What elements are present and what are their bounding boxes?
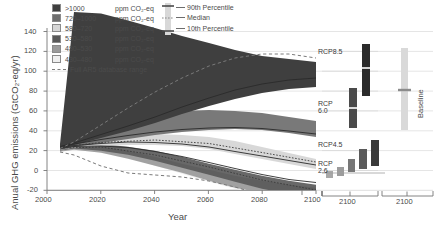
legend-swatch-720-1000 (52, 14, 61, 22)
legend-swatch-530-580 (52, 35, 61, 43)
baseline-label: Baseline (416, 89, 425, 118)
side-panel-a-xtick: 2100 (339, 198, 356, 206)
legend-item-580-720: 580–720 ppm CO₂-eq (52, 23, 154, 33)
legend-dash-full-range (52, 69, 66, 70)
y-tick-60: 60 (29, 107, 37, 115)
legend-item-530-580: 530–580 ppm CO₂-eq (52, 34, 154, 44)
panel-a-bar-rcp85 (362, 44, 370, 96)
legend-unit-580-720: ppm CO₂-eq (115, 25, 154, 32)
panel-b-bar-480-530 (337, 167, 344, 176)
y-tick-140: 140 (24, 28, 37, 36)
legend-unit-430-480: ppm CO₂-eq (115, 56, 154, 63)
y-tick-neg20: -20 (27, 186, 38, 194)
legend-label-430-480: 430–480 (65, 56, 111, 63)
percentile-item-median: Median (176, 13, 234, 24)
percentile-legend: 90th Percentile Median 10th Percentile (176, 2, 234, 34)
y-tick-0: 0 (34, 167, 38, 175)
percentile-item-90: 90th Percentile (176, 2, 234, 13)
percentile-legend-bar (162, 2, 174, 36)
percentile-dash-10 (176, 28, 185, 29)
x-tick-2060: 2060 (197, 196, 214, 204)
legend-swatch-gt1000 (52, 4, 61, 12)
y-tick-80: 80 (29, 87, 37, 95)
y-tick-100: 100 (24, 67, 37, 75)
legend-item-430-480: 430–480 ppm CO₂-eq (52, 54, 154, 64)
side-panel-b-xtick: 2100 (396, 198, 413, 206)
legend-unit-530-580: ppm CO₂-eq (115, 35, 154, 42)
percentile-dash-median (176, 17, 185, 18)
percentile-item-10: 10th Percentile (176, 23, 234, 34)
legend-unit-gt1000: ppm CO₂-eq (115, 5, 154, 12)
legend-label-580-720: 580–720 (65, 25, 111, 32)
annotation-rcp85: RCP8.5 (318, 48, 343, 55)
legend-label-480-530: 480–530 (65, 45, 111, 52)
legend-swatch-480-530 (52, 45, 61, 53)
side-panel-axes (302, 190, 433, 196)
legend-item-full-range: Full AR5 database range (52, 64, 154, 75)
y-tick-120: 120 (24, 47, 37, 55)
legend-swatch-580-720 (52, 24, 61, 32)
legend-label-full-range: Full AR5 database range (70, 66, 147, 73)
side-panel-a (322, 44, 411, 130)
legend-item-gt1000: >1000 ppm CO₂-eq (52, 3, 154, 13)
percentile-label-median: Median (187, 14, 210, 21)
percentile-dash-90 (176, 7, 185, 8)
legend-unit-720-1000: ppm CO₂-eq (115, 15, 154, 22)
annotation-rcp60: RCP 6.0 (318, 100, 333, 115)
concentration-legend: >1000 ppm CO₂-eq 720–1000 ppm CO₂-eq 580… (52, 3, 154, 75)
percentile-label-90: 90th Percentile (187, 4, 234, 11)
panel-b-bar-580-720 (359, 149, 367, 169)
x-axis-ticks (47, 190, 316, 194)
legend-label-gt1000: >1000 (65, 5, 111, 12)
annotation-rcp45: RCP4.5 (318, 141, 343, 148)
x-tick-2100: 2100 (304, 196, 321, 204)
x-tick-2020: 2020 (89, 196, 106, 204)
y-tick-40: 40 (29, 127, 37, 135)
x-tick-2000: 2000 (35, 196, 52, 204)
annotation-rcp26: RCP 2.6 (318, 160, 333, 175)
legend-label-530-580: 530–580 (65, 35, 111, 42)
x-axis-title: Year (168, 211, 187, 222)
percentile-label-10: 10th Percentile (187, 25, 234, 32)
x-tick-2040: 2040 (143, 196, 160, 204)
legend-item-720-1000: 720–1000 ppm CO₂-eq (52, 13, 154, 23)
y-tick-20: 20 (29, 147, 37, 155)
legend-swatch-430-480 (52, 55, 61, 63)
legend-label-720-1000: 720–1000 (65, 15, 111, 22)
panel-b-bar-720-1000 (371, 140, 379, 166)
ghg-emissions-figure: Anual GHG emissions (GtCO₂-eq/yr) (0, 0, 435, 232)
legend-unit-480-530: ppm CO₂-eq (115, 45, 154, 52)
y-axis-ticks (44, 32, 48, 191)
panel-b-bar-530-580 (348, 159, 355, 172)
x-tick-2080: 2080 (251, 196, 268, 204)
legend-item-480-530: 480–530 ppm CO₂-eq (52, 44, 154, 54)
